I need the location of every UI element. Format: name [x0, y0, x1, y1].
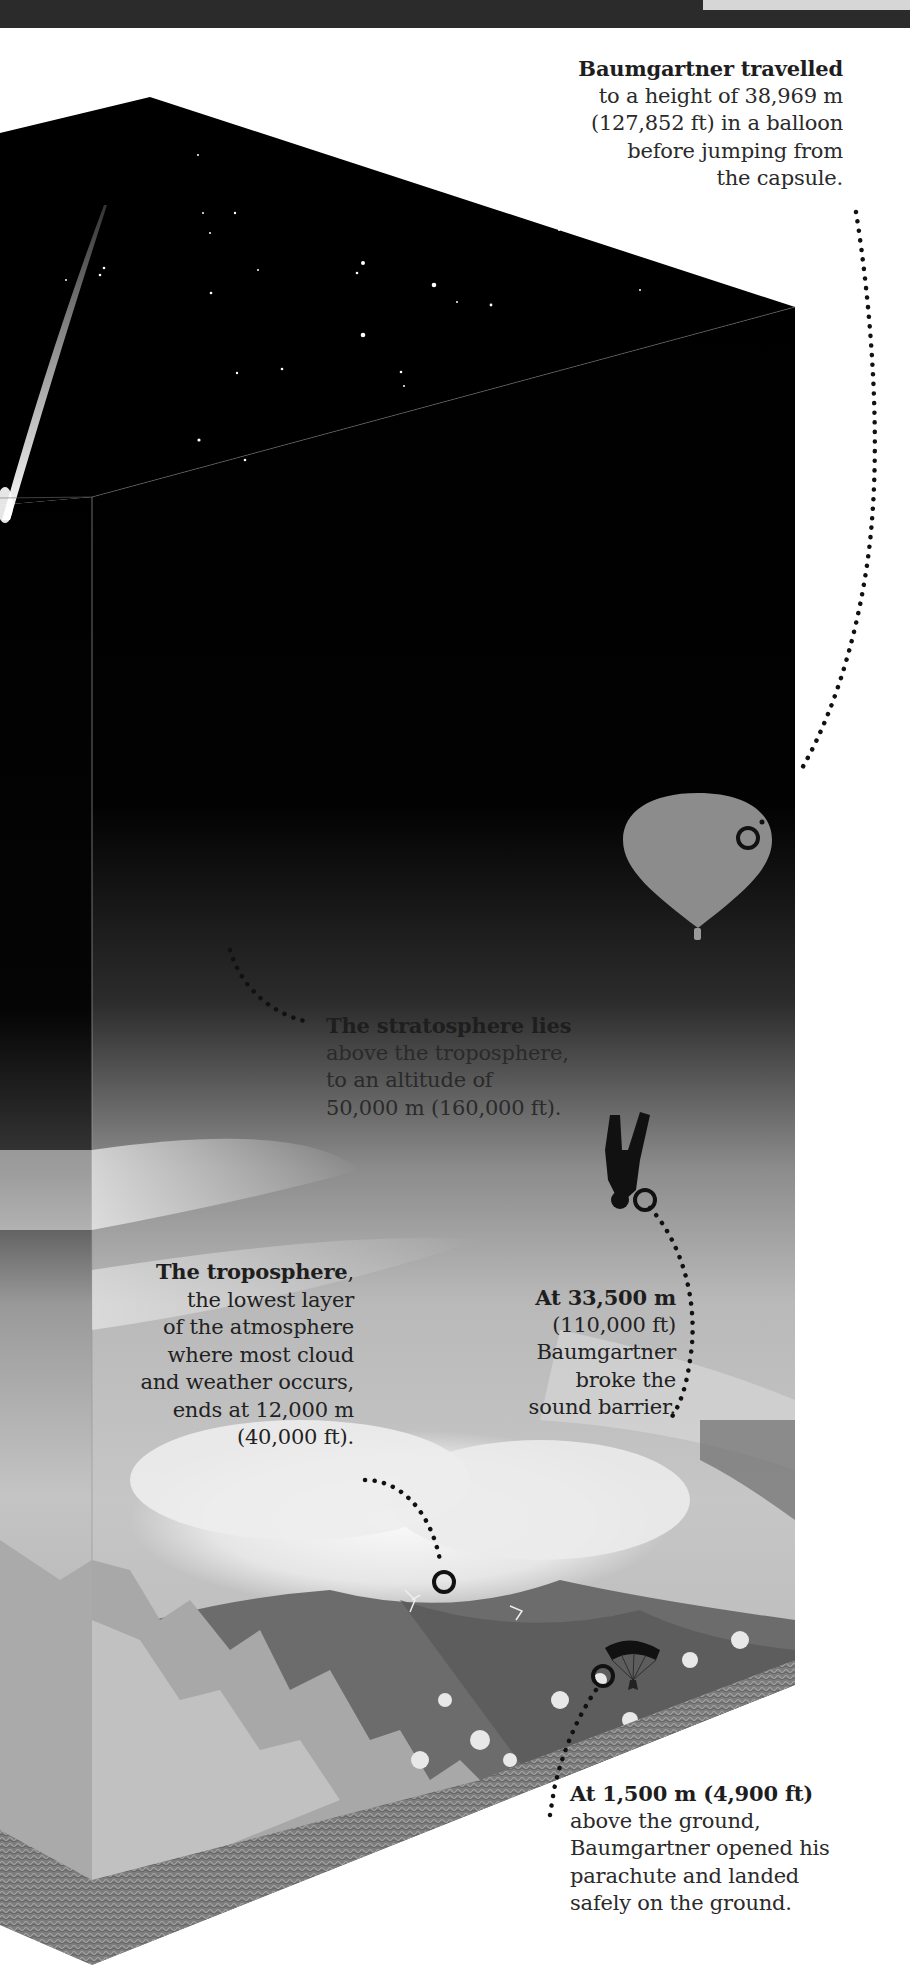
annotation-line: ends at 12,000 m — [140, 1397, 354, 1425]
annotation-sound-barrier: At 33,500 m (110,000 ft) Baumgartner bro… — [529, 1284, 676, 1422]
annotation-line: the capsule. — [578, 165, 843, 193]
annotation-line: (40,000 ft). — [140, 1424, 354, 1452]
annotation-stratosphere: The stratosphere lies above the troposph… — [326, 1012, 571, 1122]
annotation-line: (127,852 ft) in a balloon — [578, 110, 843, 138]
annotation-line: 50,000 m (160,000 ft). — [326, 1095, 571, 1123]
annotation-line: and weather occurs, — [140, 1369, 354, 1397]
annotation-line: above the troposphere, — [326, 1040, 571, 1068]
annotation-heading-suffix: , — [348, 1260, 354, 1284]
annotation-line: the lowest layer — [140, 1287, 354, 1315]
annotation-line: (110,000 ft) — [529, 1312, 676, 1340]
annotation-line: to a height of 38,969 m — [578, 83, 843, 111]
leader-balloon — [801, 212, 875, 770]
annotation-line: where most cloud — [140, 1342, 354, 1370]
annotation-line: safely on the ground. — [570, 1890, 830, 1918]
annotation-line: broke the — [529, 1367, 676, 1395]
atmosphere-box-diagram — [0, 0, 910, 1971]
annotation-heading: At 33,500 m — [529, 1284, 676, 1312]
annotation-line: of the atmosphere — [140, 1314, 354, 1342]
annotation-line: Baumgartner — [529, 1339, 676, 1367]
annotation-troposphere: The troposphere, the lowest layer of the… — [140, 1258, 354, 1452]
annotation-heading: The troposphere — [156, 1259, 348, 1284]
annotation-parachute: At 1,500 m (4,900 ft) above the ground, … — [570, 1780, 830, 1918]
annotation-heading: The stratosphere lies — [326, 1012, 571, 1040]
annotation-heading: At 1,500 m (4,900 ft) — [570, 1780, 830, 1808]
annotation-line: to an altitude of — [326, 1067, 571, 1095]
annotation-line: Baumgartner opened his — [570, 1835, 830, 1863]
annotation-balloon-height: Baumgartner travelled to a height of 38,… — [578, 55, 843, 193]
annotation-heading: Baumgartner travelled — [578, 55, 843, 83]
annotation-line: sound barrier. — [529, 1394, 676, 1422]
annotation-line: parachute and landed — [570, 1863, 830, 1891]
annotation-line: above the ground, — [570, 1808, 830, 1836]
annotation-line: before jumping from — [578, 138, 843, 166]
